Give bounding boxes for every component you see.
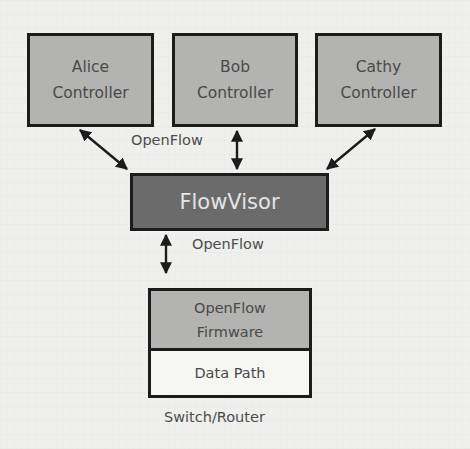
cathy-flowvisor-arrow [327, 129, 375, 169]
connection-arrows [0, 0, 470, 449]
alice-flowvisor-arrow [80, 130, 127, 169]
